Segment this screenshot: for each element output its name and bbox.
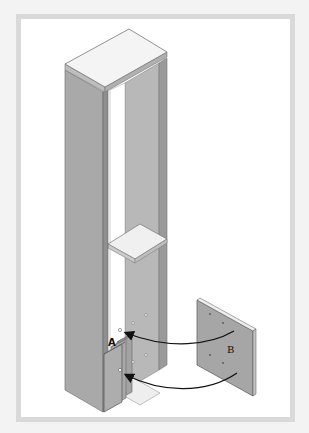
part-a-panel [104,344,122,412]
label-a: A [108,337,116,348]
left-side-panel [65,70,103,412]
assembly-diagram: A B [0,0,309,433]
label-b: B [227,344,234,355]
